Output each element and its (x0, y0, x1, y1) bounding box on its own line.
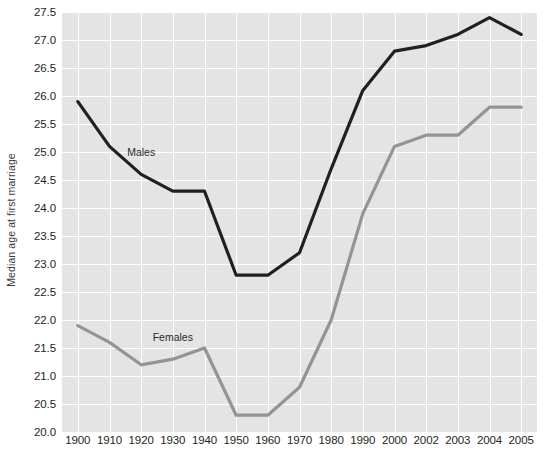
y-tick-label: 26.5 (34, 62, 56, 74)
y-tick-label: 24.0 (34, 202, 56, 214)
x-tick-label: 1960 (255, 434, 280, 446)
x-tick-label: 1920 (129, 434, 154, 446)
y-tick-label: 21.5 (34, 342, 56, 354)
x-tick-label: 1940 (192, 434, 217, 446)
x-tick-label: 1910 (97, 434, 122, 446)
y-tick-label: 24.5 (34, 174, 56, 186)
series-label-females: Females (153, 331, 193, 343)
y-tick-label: 27.0 (34, 34, 56, 46)
x-tick-label: 1930 (160, 434, 185, 446)
y-tick-label: 20.0 (34, 426, 56, 438)
x-tick-label: 2003 (445, 434, 470, 446)
y-tick-label: 25.5 (34, 118, 56, 130)
y-tick-label: 25.0 (34, 146, 56, 158)
plot-area: MalesFemales (62, 12, 537, 432)
y-tick-label: 22.5 (34, 286, 56, 298)
chart-root: Median age at first marriage 27.527.026.… (0, 0, 547, 455)
x-tick-label: 1900 (65, 434, 90, 446)
y-tick-label: 20.5 (34, 398, 56, 410)
series-label-males: Males (127, 146, 155, 158)
x-tick-label: 1950 (224, 434, 249, 446)
y-axis-title-text: Median age at first marriage (5, 153, 17, 287)
x-tick-label: 2004 (477, 434, 502, 446)
y-axis-title: Median age at first marriage (0, 0, 22, 440)
y-tick-label: 27.5 (34, 6, 56, 18)
y-tick-label: 21.0 (34, 370, 56, 382)
x-tick-label: 1990 (350, 434, 375, 446)
x-axis-tick-labels: 1900191019201930194019501960197019801990… (62, 434, 537, 454)
y-tick-label: 23.5 (34, 230, 56, 242)
x-tick-label: 1970 (287, 434, 312, 446)
x-tick-label: 1980 (319, 434, 344, 446)
y-tick-label: 23.0 (34, 258, 56, 270)
x-tick-label: 2000 (382, 434, 407, 446)
y-tick-label: 26.0 (34, 90, 56, 102)
y-tick-label: 22.0 (34, 314, 56, 326)
y-axis-tick-labels: 27.527.026.526.025.525.024.524.023.523.0… (22, 0, 60, 455)
series-lines (62, 12, 537, 432)
x-tick-label: 2002 (414, 434, 439, 446)
x-tick-label: 2005 (509, 434, 534, 446)
gridline-horizontal (62, 432, 537, 433)
